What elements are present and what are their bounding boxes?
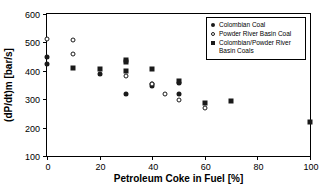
y-tick: 300 bbox=[43, 99, 47, 100]
y-tick-label: 600 bbox=[25, 11, 40, 20]
data-point bbox=[123, 60, 128, 65]
y-tick: 400 bbox=[43, 71, 47, 72]
data-point bbox=[202, 101, 207, 106]
x-tick-label: 0 bbox=[45, 163, 50, 172]
data-point bbox=[71, 37, 76, 42]
data-point bbox=[45, 36, 50, 41]
data-point bbox=[45, 54, 50, 59]
data-point bbox=[150, 66, 155, 71]
data-point bbox=[71, 65, 76, 70]
x-tick: 60 bbox=[205, 156, 206, 160]
data-point bbox=[176, 92, 181, 97]
x-tick-label: 60 bbox=[201, 163, 211, 172]
data-point bbox=[150, 82, 155, 87]
data-point bbox=[123, 74, 128, 79]
y-axis-title: (dP/dt)m [bar/s] bbox=[2, 13, 16, 157]
y-tick-label: 300 bbox=[25, 96, 40, 105]
data-point bbox=[97, 72, 102, 77]
y-tick: 500 bbox=[43, 42, 47, 43]
scatter-chart-figure: (dP/dt)m [bar/s] 100200300400500600 0204… bbox=[0, 0, 326, 193]
x-tick: 80 bbox=[257, 156, 258, 160]
x-tick-label: 20 bbox=[96, 163, 106, 172]
legend-marker-filled-square-icon bbox=[211, 39, 219, 45]
y-tick-label: 500 bbox=[25, 39, 40, 48]
x-tick: 40 bbox=[152, 156, 153, 160]
data-point bbox=[176, 79, 181, 84]
legend-label: Colombian/Powder River Basin Coals bbox=[219, 39, 302, 55]
x-tick-label: 100 bbox=[303, 163, 318, 172]
y-tick-label: 100 bbox=[25, 153, 40, 162]
legend-item: Powder River Basin Coal bbox=[211, 30, 302, 38]
y-tick: 600 bbox=[43, 14, 47, 15]
y-axis-title-text: (dP/dt)m [bar/s] bbox=[4, 48, 14, 122]
data-point bbox=[123, 92, 128, 97]
x-tick: 20 bbox=[100, 156, 101, 160]
x-axis-title: Petroleum Coke in Fuel [%] bbox=[46, 174, 311, 184]
data-point bbox=[97, 66, 102, 71]
legend-label: Colombian Coal bbox=[219, 21, 265, 29]
data-point bbox=[176, 98, 181, 103]
data-point bbox=[71, 52, 76, 57]
data-point bbox=[202, 105, 207, 110]
data-point bbox=[45, 61, 50, 66]
legend-label: Powder River Basin Coal bbox=[219, 30, 291, 38]
data-point bbox=[308, 120, 313, 125]
y-tick-label: 400 bbox=[25, 67, 40, 76]
legend-marker-filled-circle-icon bbox=[211, 21, 219, 27]
data-point bbox=[229, 99, 234, 104]
x-tick: 100 bbox=[310, 156, 311, 160]
chart-legend: Colombian Coal Powder River Basin Coal C… bbox=[206, 17, 306, 60]
legend-item: Colombian Coal bbox=[211, 21, 302, 29]
y-tick-label: 200 bbox=[25, 124, 40, 133]
data-point bbox=[123, 68, 128, 73]
x-tick-label: 80 bbox=[253, 163, 263, 172]
x-tick: 0 bbox=[47, 156, 48, 160]
x-tick-label: 40 bbox=[148, 163, 158, 172]
legend-marker-open-circle-icon bbox=[211, 30, 219, 36]
y-tick: 200 bbox=[43, 128, 47, 129]
legend-item: Colombian/Powder River Basin Coals bbox=[211, 39, 302, 55]
data-point bbox=[163, 92, 168, 97]
